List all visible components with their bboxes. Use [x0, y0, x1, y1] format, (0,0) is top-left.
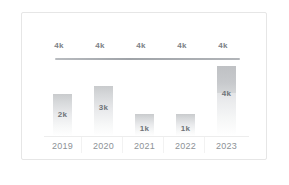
axis-separator-3 — [163, 137, 164, 153]
trend-label-2019: 4k — [44, 41, 74, 50]
trend-label-2020: 4k — [85, 41, 115, 50]
bar-value-2021: 1k — [126, 124, 163, 133]
bar-value-2022: 1k — [167, 124, 204, 133]
bar-2023[interactable] — [217, 66, 236, 136]
trend-label-2021: 4k — [126, 41, 156, 50]
x-tick-2022: 2022 — [167, 141, 204, 151]
axis-separator-2 — [122, 137, 123, 153]
x-tick-2021: 2021 — [126, 141, 163, 151]
chart-plot-area: 4k 4k 4k 4k 4k 2k 3k 1k 1k 4k — [22, 13, 268, 161]
axis-separator-4 — [204, 137, 205, 153]
trend-line-series — [55, 58, 240, 60]
trend-label-2022: 4k — [167, 41, 197, 50]
x-axis-line — [44, 136, 249, 137]
bar-value-2020: 3k — [85, 103, 122, 112]
x-tick-2020: 2020 — [85, 141, 122, 151]
x-tick-2023: 2023 — [208, 141, 245, 151]
chart-card: 4k 4k 4k 4k 4k 2k 3k 1k 1k 4k — [21, 12, 267, 160]
trend-label-2023: 4k — [208, 41, 238, 50]
bar-value-2023: 4k — [208, 89, 245, 98]
bar-value-2019: 2k — [44, 110, 81, 119]
x-tick-2019: 2019 — [44, 141, 81, 151]
axis-separator-1 — [81, 137, 82, 153]
